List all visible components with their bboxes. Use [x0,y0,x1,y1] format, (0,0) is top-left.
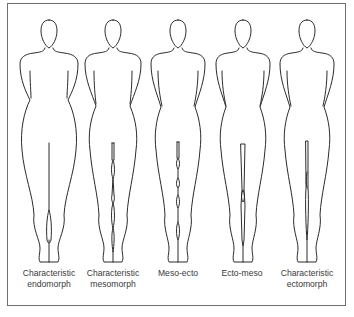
head-icon [41,20,57,48]
head-icon [170,20,186,48]
figure-mesomorph [85,20,141,262]
right-arm-line [67,71,68,98]
head-icon [105,20,121,48]
figure-ectomorph [280,20,334,262]
left-arm-line [30,71,31,98]
left-arm-line [94,71,96,104]
leg-gap [241,144,245,262]
head-icon [235,20,251,48]
leg-gap [47,143,52,262]
right-arm-line [130,71,132,104]
figure-endomorph [20,20,78,262]
figure-meso-ecto [151,20,205,262]
leg-gap [306,141,309,262]
leg-gap [112,143,115,262]
label-ecto-meso: Ecto-meso [207,268,277,279]
body-outline [216,48,270,262]
leg-gap [177,142,180,262]
label-mesomorph: Characteristic mesomorph [78,268,148,290]
figure-ecto-meso [216,20,270,262]
label-ectomorph: Characteristic ectomorph [272,268,342,290]
body-outline [85,48,141,262]
body-outline [280,48,334,262]
label-endomorph: Characteristic endomorph [14,268,84,290]
head-icon [299,20,315,48]
body-outline [151,48,205,262]
label-meso-ecto: Meso-ecto [143,268,213,279]
